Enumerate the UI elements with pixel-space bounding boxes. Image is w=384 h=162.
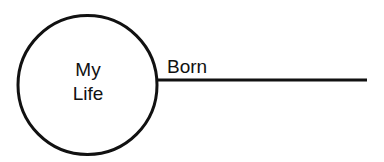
life-timeline-diagram: My Life Born bbox=[0, 0, 384, 162]
timeline-label-born: Born bbox=[167, 56, 207, 78]
circle-label-line-1: My bbox=[58, 58, 118, 82]
circle-label-line-2: Life bbox=[58, 82, 118, 106]
